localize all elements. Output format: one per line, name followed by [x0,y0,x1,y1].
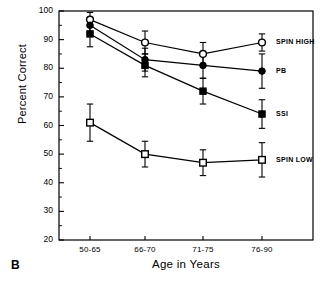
data-point-marker [142,39,149,46]
figure-panel-b: B Percent Correct Age in Years 100908070… [0,0,324,285]
y-tick-label: 30 [29,206,53,215]
series-line [90,123,262,163]
y-tick-label: 80 [29,63,53,72]
series-label-spin-high: SPIN HIGH [276,38,314,45]
data-point-marker [259,157,266,164]
x-tick-label: 76-90 [240,245,284,254]
data-point-marker [87,119,94,126]
series-label-spin-low: SPIN LOW [276,156,313,163]
panel-label: B [11,258,20,272]
y-tick-label: 100 [29,6,53,15]
y-tick-label: 50 [29,149,53,158]
data-point-marker [200,51,207,58]
x-axis-title: Age in Years [59,258,313,270]
data-point-marker [259,39,266,46]
data-point-marker [200,62,207,69]
series-line [90,34,262,114]
series-label-ssi: SSI [276,110,288,117]
data-point-marker [200,88,206,94]
data-point-marker [87,31,93,37]
data-point-marker [142,151,149,158]
y-axis-title: Percent Correct [16,14,28,154]
x-tick-label: 71-75 [181,245,225,254]
y-tick-label: 20 [29,235,53,244]
plot-frame [59,11,313,240]
x-tick-label: 50-65 [68,245,112,254]
y-tick-label: 60 [29,121,53,130]
x-tick-label: 66-70 [123,245,167,254]
data-point-marker [259,111,265,117]
data-point-marker [259,68,266,75]
y-tick-label: 70 [29,92,53,101]
data-point-marker [87,22,94,29]
y-tick-label: 90 [29,35,53,44]
series-label-pb: PB [276,67,286,74]
y-tick-label: 40 [29,178,53,187]
data-point-marker [142,62,148,68]
data-point-marker [200,159,207,166]
